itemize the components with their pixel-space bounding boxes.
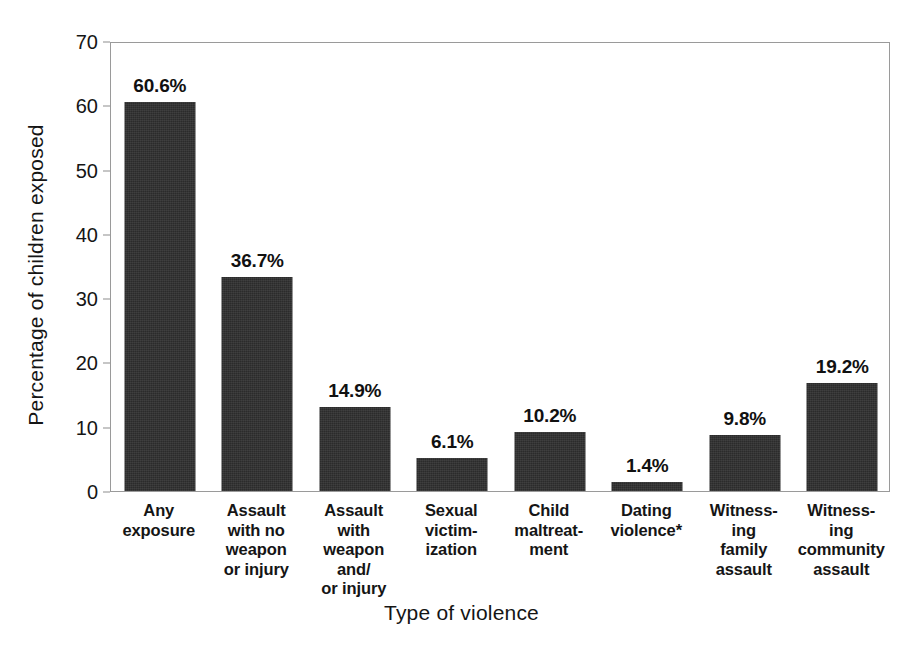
category-label-line: ing <box>829 521 853 539</box>
x-axis-category-label: Witness-ingcommunityassault <box>791 501 891 579</box>
x-axis-category-label: Datingviolence* <box>596 501 696 540</box>
category-label-line: or injury <box>321 579 386 597</box>
bar-slot: 6.1% <box>404 43 502 491</box>
y-axis-tick-mark <box>103 492 110 493</box>
y-axis-tick-label: 0 <box>52 482 98 502</box>
category-label-line: Child <box>528 501 569 519</box>
bar-value-label: 60.6% <box>133 75 186 97</box>
category-label-line: weapon <box>323 540 384 558</box>
category-label-line: Any <box>143 501 174 519</box>
x-axis-category-label: Witness-ingfamilyassault <box>694 501 794 579</box>
x-axis-category-label: Assaultwith noweaponor injury <box>206 501 306 579</box>
bar[interactable] <box>807 383 878 491</box>
bar[interactable] <box>417 458 488 491</box>
bar-slot: 60.6% <box>111 43 209 491</box>
category-label-line: exposure <box>122 521 195 539</box>
category-label-line: assault <box>716 560 772 578</box>
category-label-line: Assault <box>227 501 286 519</box>
y-axis-tick-label: 10 <box>52 418 98 438</box>
category-label-line: ing <box>732 521 756 539</box>
category-label-line: assault <box>813 560 869 578</box>
bar-slot: 19.2% <box>794 43 892 491</box>
x-axis-title: Type of violence <box>0 601 923 625</box>
category-label-line: community <box>798 540 885 558</box>
bar-slot: 14.9% <box>306 43 404 491</box>
bar-value-label: 19.2% <box>816 356 869 378</box>
x-axis-category-label: Assaultwithweaponand/or injury <box>304 501 404 599</box>
bar[interactable] <box>514 432 585 491</box>
bar-slot: 36.7% <box>209 43 307 491</box>
category-label-line: Sexual <box>425 501 478 519</box>
y-axis-tick-label: 50 <box>52 161 98 181</box>
category-label-line: with no <box>228 521 285 539</box>
category-label-line: weapon <box>226 540 287 558</box>
y-axis-tick-label: 30 <box>52 289 98 309</box>
bar[interactable] <box>612 482 683 491</box>
bar-value-label: 1.4% <box>626 455 669 477</box>
bar-value-label: 10.2% <box>523 405 576 427</box>
y-axis-tick-mark <box>103 299 110 300</box>
y-axis-title: Percentage of children exposed <box>19 40 53 510</box>
bar-value-label: 14.9% <box>328 380 381 402</box>
category-label-line: ment <box>529 540 568 558</box>
bar-value-label: 36.7% <box>231 250 284 272</box>
y-axis-tick-mark <box>103 363 110 364</box>
category-label-line: Witness- <box>710 501 778 519</box>
y-axis-tick-mark <box>103 42 110 43</box>
bar[interactable] <box>319 407 390 491</box>
y-axis-tick-label: 70 <box>52 32 98 52</box>
category-label-line: ization <box>425 540 477 558</box>
category-label-line: family <box>720 540 767 558</box>
plot-area: 60.6%36.7%14.9%6.1%10.2%1.4%9.8%19.2% <box>110 42 890 492</box>
bar[interactable] <box>222 277 293 491</box>
category-label-line: Assault <box>324 501 383 519</box>
bar[interactable] <box>124 102 195 491</box>
y-axis-tick-label: 40 <box>52 225 98 245</box>
y-axis-tick-mark <box>103 234 110 235</box>
y-axis-tick-mark <box>103 427 110 428</box>
y-axis-tick-mark <box>103 170 110 171</box>
y-axis-tick-label: 20 <box>52 353 98 373</box>
category-label-line: or injury <box>224 560 289 578</box>
bar-slot: 10.2% <box>501 43 599 491</box>
y-axis-tick-mark <box>103 106 110 107</box>
bar[interactable] <box>709 435 780 491</box>
x-axis-category-label: Anyexposure <box>109 501 209 540</box>
category-label-line: and/ <box>337 560 371 578</box>
bar-slot: 9.8% <box>696 43 794 491</box>
category-label-line: maltreat- <box>514 521 583 539</box>
x-axis-category-label: Sexualvictim-ization <box>401 501 501 560</box>
category-label-line: with <box>337 521 370 539</box>
bar-value-label: 6.1% <box>431 431 474 453</box>
category-label-line: victim- <box>425 521 477 539</box>
bar-slot: 1.4% <box>599 43 697 491</box>
y-axis-tick-label: 60 <box>52 96 98 116</box>
bar-chart-figure: Percentage of children exposed 706050403… <box>0 0 923 661</box>
category-label-line: violence* <box>610 521 682 539</box>
category-label-line: Dating <box>621 501 672 519</box>
x-axis-category-label: Childmaltreat-ment <box>499 501 599 560</box>
category-label-line: Witness- <box>807 501 875 519</box>
bar-value-label: 9.8% <box>723 408 766 430</box>
